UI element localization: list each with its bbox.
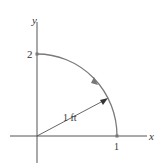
y-axis-label: y [31,14,37,26]
x-tick-label: 1 [114,141,119,152]
y-intercept-point [36,53,39,56]
x-axis-label: x [148,130,154,142]
x-intercept-point [116,135,119,138]
diagram-canvas: y x 2 1 1 ft [0,0,163,167]
quarter-arc [37,54,117,136]
radius-arrowhead-icon [100,98,108,105]
y-tick-label: 2 [27,48,33,60]
radius-label: 1 ft [63,112,77,123]
